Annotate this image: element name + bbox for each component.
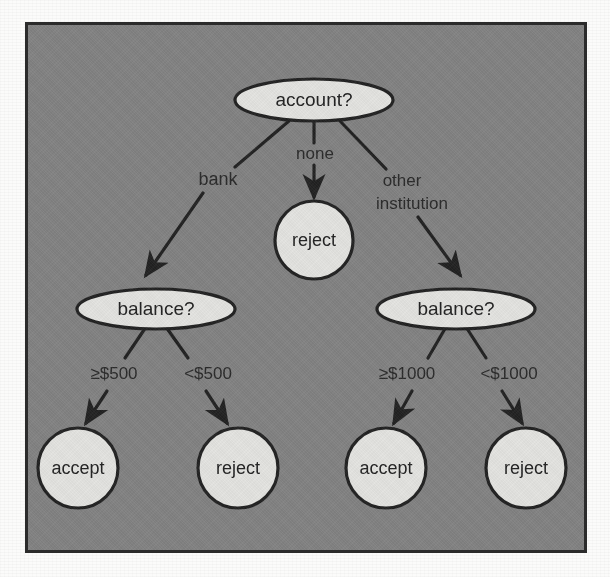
edge-label-other-institution-line1: other [383, 171, 422, 190]
edge-label-lt-500: <$500 [184, 364, 232, 383]
node-balance-right[interactable]: balance? [377, 289, 535, 329]
node-reject-left-label: reject [216, 458, 260, 478]
node-reject-none[interactable]: reject [275, 201, 353, 279]
page-background: account? reject balance? balance? [0, 0, 610, 577]
node-balance-left[interactable]: balance? [77, 289, 235, 329]
decision-tree-figure-panel: account? reject balance? balance? [25, 22, 587, 553]
node-reject-right[interactable]: reject [486, 428, 566, 508]
node-reject-left[interactable]: reject [198, 428, 278, 508]
node-balance-left-label: balance? [117, 298, 194, 319]
edge-label-ge-1000: ≥$1000 [379, 364, 436, 383]
edge-label-lt-1000: <$1000 [480, 364, 537, 383]
decision-tree-svg: account? reject balance? balance? [28, 25, 584, 550]
node-accept-left-label: accept [51, 458, 104, 478]
edge-label-bank: bank [198, 169, 238, 189]
node-reject-none-label: reject [292, 230, 336, 250]
edge-label-none: none [296, 144, 334, 163]
node-balance-right-label: balance? [417, 298, 494, 319]
edge-label-ge-500: ≥$500 [90, 364, 137, 383]
node-account[interactable]: account? [235, 79, 393, 121]
node-accept-right-label: accept [359, 458, 412, 478]
node-reject-right-label: reject [504, 458, 548, 478]
edge-label-other-institution-line2: institution [376, 194, 448, 213]
node-account-label: account? [275, 89, 352, 110]
edge-bank [146, 121, 289, 275]
node-accept-right[interactable]: accept [346, 428, 426, 508]
node-accept-left[interactable]: accept [38, 428, 118, 508]
